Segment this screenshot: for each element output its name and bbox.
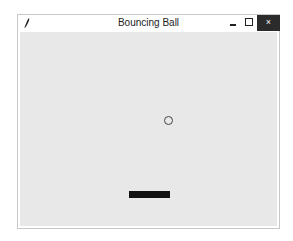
ball bbox=[164, 116, 173, 125]
minimize-button[interactable] bbox=[226, 15, 240, 31]
close-button[interactable]: × bbox=[257, 15, 280, 31]
maximize-button[interactable] bbox=[242, 15, 256, 31]
paddle bbox=[129, 191, 170, 198]
game-canvas[interactable] bbox=[20, 32, 277, 226]
title-bar[interactable]: Bouncing Ball × bbox=[18, 15, 279, 32]
app-window: Bouncing Ball × bbox=[17, 14, 280, 229]
